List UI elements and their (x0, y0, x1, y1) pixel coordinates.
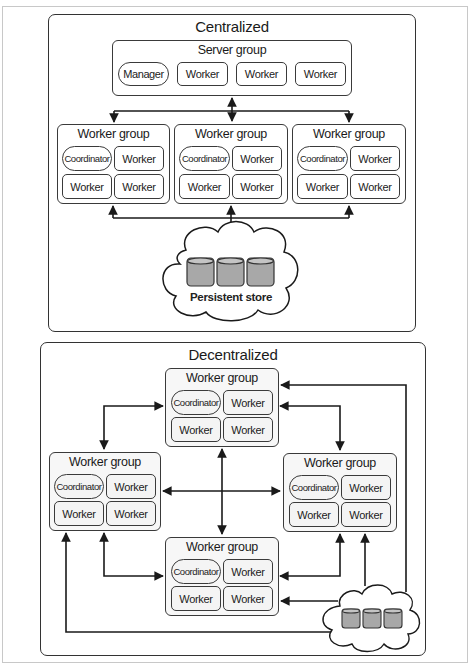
persistent-store-cylinders (187, 258, 274, 286)
coordinator-node: Coordinator (171, 390, 221, 415)
decentralized-worker-group-right: Worker group Coordinator Worker Worker W… (283, 453, 397, 532)
coordinator-node: Coordinator (54, 474, 104, 499)
worker-node: Worker (106, 501, 156, 526)
decentralized-worker-group-bottom: Worker group Coordinator Worker Worker W… (165, 537, 279, 616)
worker-node: Worker (341, 502, 391, 527)
worker-group-title: Worker group (166, 371, 278, 385)
worker-group-title: Worker group (284, 456, 396, 470)
coordinator-node: Coordinator (171, 559, 221, 584)
worker-node: Worker (54, 501, 104, 526)
worker-node: Worker (171, 417, 221, 442)
decentralized-worker-group-left: Worker group Coordinator Worker Worker W… (49, 452, 161, 531)
worker-node: Worker (223, 417, 273, 442)
worker-node: Worker (106, 474, 156, 499)
worker-node: Worker (223, 390, 273, 415)
persistent-store-label: Persistent store (180, 291, 282, 303)
worker-node: Worker (341, 475, 391, 500)
decentralized-store-cylinders (342, 609, 402, 628)
worker-node: Worker (223, 559, 273, 584)
worker-node: Worker (171, 586, 221, 611)
worker-node: Worker (223, 586, 273, 611)
decentralized-worker-group-top: Worker group Coordinator Worker Worker W… (165, 368, 279, 447)
coordinator-node: Coordinator (289, 475, 339, 500)
worker-group-title: Worker group (50, 455, 160, 469)
worker-group-title: Worker group (166, 540, 278, 554)
worker-node: Worker (289, 502, 339, 527)
